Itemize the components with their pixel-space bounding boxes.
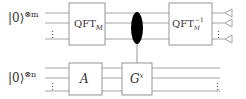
control-ellipse <box>131 12 143 44</box>
top-ellipsis-right: ⋮ <box>214 30 223 40</box>
bottom-register-label: |0⟩⊗n <box>8 70 36 85</box>
measure-icon-3 <box>225 35 232 43</box>
top-ellipsis-left: ⋮ <box>48 30 57 40</box>
bottom-ellipsis-right: ⋮ <box>213 82 222 92</box>
a-gate-label: A <box>79 72 89 86</box>
quantum-circuit: |0⟩⊗m |0⟩⊗n ⋮ ⋮ QFTM A Gx QFTM−1 ⋮ ⋮ <box>0 0 246 99</box>
inverse-qft-gate: QFTM−1 <box>169 3 212 45</box>
top-register-label: |0⟩⊗m <box>8 10 39 25</box>
a-gate: A <box>69 63 102 95</box>
measurements <box>225 9 232 43</box>
measure-icon-2 <box>225 19 232 27</box>
measure-icon-1 <box>225 9 232 17</box>
qft-gate: QFTM <box>69 3 105 45</box>
g-gate: Gx <box>122 63 152 95</box>
inverse-qft-gate-label: QFTM−1 <box>172 16 204 31</box>
bottom-ellipsis-left: ⋮ <box>48 82 57 92</box>
